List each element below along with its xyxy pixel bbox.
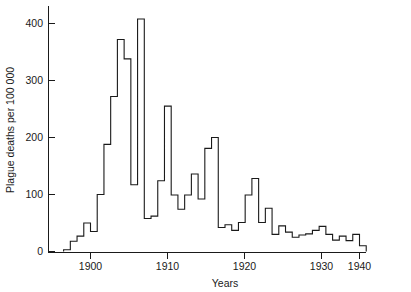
data-series-line bbox=[64, 19, 367, 252]
x-tick-label-1900: 1900 bbox=[79, 260, 103, 272]
x-tick-label-1910: 1910 bbox=[156, 260, 180, 272]
x-axis-ticks bbox=[91, 253, 360, 259]
x-tick-label-1920: 1920 bbox=[233, 260, 257, 272]
y-axis-ticks bbox=[49, 24, 55, 252]
axis-spines bbox=[49, 6, 367, 253]
plague-deaths-line-chart: 400 300 200 100 0 1900 1910 1920 1930 19… bbox=[0, 0, 411, 292]
y-axis-title: Plague deaths per 100 000 bbox=[4, 67, 16, 193]
y-tick-label-300: 300 bbox=[25, 74, 43, 86]
x-axis-tick-labels: 1900 1910 1920 1930 1940 bbox=[79, 260, 372, 272]
y-tick-label-400: 400 bbox=[25, 17, 43, 29]
y-axis-tick-labels: 400 300 200 100 0 bbox=[25, 17, 43, 257]
chart-figure: 400 300 200 100 0 1900 1910 1920 1930 19… bbox=[0, 0, 411, 292]
y-tick-label-200: 200 bbox=[25, 131, 43, 143]
y-tick-label-0: 0 bbox=[37, 245, 43, 257]
y-tick-label-100: 100 bbox=[25, 188, 43, 200]
x-tick-label-1940: 1940 bbox=[348, 260, 372, 272]
x-tick-label-1930: 1930 bbox=[310, 260, 334, 272]
x-axis-title: Years bbox=[212, 277, 238, 289]
